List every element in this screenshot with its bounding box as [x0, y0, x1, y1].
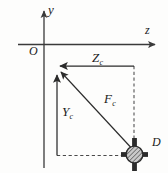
force-diagram-figure: y z O Zc Fc Yc D — [0, 0, 168, 173]
point-d-label: D — [152, 136, 161, 148]
yc-subscript: c — [69, 112, 73, 121]
figure-canvas — [0, 0, 168, 173]
zc-subscript: c — [99, 58, 103, 67]
y-axis-label: y — [48, 3, 54, 16]
z-axis-label: z — [145, 24, 150, 36]
origin-label: O — [29, 45, 38, 57]
fc-base: F — [104, 91, 112, 106]
yc-vector-label: Yc — [62, 105, 73, 118]
fc-subscript: c — [112, 99, 116, 108]
zc-vector-label: Zc — [92, 51, 103, 64]
support-marker-icon — [121, 138, 148, 171]
fc-vector-label: Fc — [104, 92, 116, 105]
